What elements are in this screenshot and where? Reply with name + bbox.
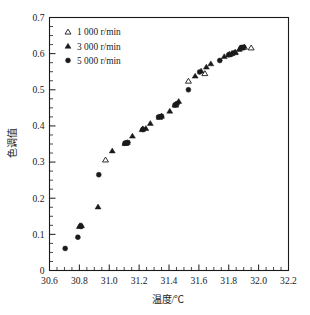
data-point [186,87,191,92]
data-point [175,101,180,106]
y-tick-label: 0 [40,265,45,276]
y-tick-label: 0.1 [33,229,45,240]
x-tick-label: 31.8 [220,275,237,286]
x-tick-label: 30.8 [71,275,88,286]
x-tick-label: 32.2 [280,275,297,286]
scatter-chart: 30.630.831.031.231.431.631.832.032.2 00.… [0,0,310,315]
data-point [241,45,246,50]
y-tick-label: 0.2 [33,193,45,204]
x-tick-label: 31.4 [161,275,178,286]
data-point [140,127,145,132]
y-tick-label: 0.5 [33,84,45,95]
data-point [197,70,202,75]
x-tick-label: 30.6 [41,275,58,286]
y-tick-label: 0.4 [33,120,45,131]
y-axis-title: 色调值 [6,128,18,158]
legend-label: 1 000 r/min [77,27,121,37]
data-point [217,58,222,63]
chart-figure: 30.630.831.031.231.431.631.832.032.2 00.… [0,0,310,315]
data-point [63,246,68,251]
y-tick-label: 0.3 [33,156,45,167]
x-tick-label: 31.6 [190,275,207,286]
data-point [226,52,231,57]
chart-background [0,0,310,315]
x-tick-label: 32.0 [250,275,267,286]
y-tick-label: 0.6 [33,48,45,59]
data-point [75,235,80,240]
data-point [159,114,164,119]
legend-label: 3 000 r/min [77,42,121,52]
x-tick-label: 31.2 [131,275,148,286]
x-tick-label: 31.0 [101,275,118,286]
legend-marker [66,58,71,63]
data-point [78,224,83,229]
x-axis-title: 温度/℃ [152,293,185,305]
legend-label: 5 000 r/min [77,56,121,66]
y-tick-label: 0.7 [33,12,45,23]
data-point [231,50,236,55]
data-point [96,172,101,177]
data-point [125,140,130,145]
x-axis-tick-labels: 30.630.831.031.231.431.631.832.032.2 [41,275,297,286]
